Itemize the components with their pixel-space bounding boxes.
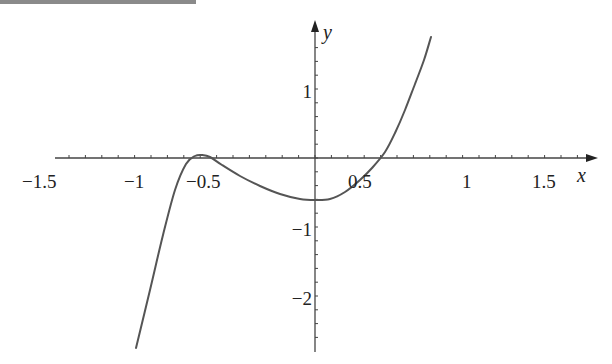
y-tick-label: 1 — [303, 82, 313, 101]
x-tick-label: −1 — [124, 172, 144, 191]
x-axis-arrow-icon — [586, 154, 598, 162]
x-tick-label: −1.5 — [22, 172, 56, 191]
x-tick-label: −0.5 — [186, 172, 220, 191]
x-axis — [55, 154, 598, 162]
y-axis-label: y — [323, 22, 332, 42]
x-tick-label: 1.5 — [532, 172, 556, 191]
y-tick-label: −1 — [292, 220, 312, 239]
y-axis-arrow-icon — [311, 20, 319, 32]
y-axis — [311, 20, 319, 352]
plot-area — [0, 0, 612, 364]
function-curve — [136, 37, 431, 348]
x-tick-label: 1 — [462, 172, 472, 191]
x-axis-label: x — [577, 165, 586, 185]
y-tick-label: −2 — [292, 289, 312, 308]
x-tick-label: 0.5 — [348, 172, 372, 191]
